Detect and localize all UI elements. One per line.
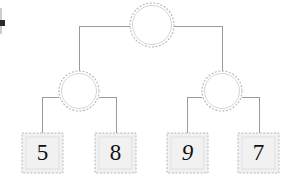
leaf-label-4: 7	[253, 140, 265, 165]
internal-node-right-circle[interactable]	[202, 71, 242, 111]
root-node[interactable]	[130, 3, 174, 47]
edge-right-child-to-leaf-4	[242, 97, 259, 133]
root-node-circle[interactable]	[130, 3, 174, 47]
internal-node-left[interactable]	[59, 71, 99, 111]
binary-tree-diagram: 5 8 9 7	[0, 0, 286, 184]
edge-left-child-to-leaf-1	[42, 97, 59, 133]
leaf-node-2[interactable]: 8	[95, 133, 136, 173]
left-edge-mark-icon	[0, 20, 5, 26]
internal-node-group	[59, 3, 242, 111]
leaf-node-1[interactable]: 5	[22, 133, 63, 173]
diagram-canvas: 5 8 9 7	[0, 0, 286, 184]
edge-left-child-to-leaf-2	[99, 97, 116, 133]
leaf-node-4[interactable]: 7	[238, 133, 279, 173]
left-edge-faint-mark	[0, 8, 2, 20]
leaf-label-1: 5	[37, 140, 49, 165]
edge-root-to-left-child	[79, 26, 130, 71]
leaf-label-2: 8	[110, 140, 122, 165]
leaf-label-3: 9	[182, 140, 194, 165]
edge-right-child-to-leaf-3	[187, 97, 202, 133]
edge-root-to-right-child	[174, 26, 222, 71]
leaf-node-3[interactable]: 9	[167, 133, 208, 173]
internal-node-left-circle[interactable]	[59, 71, 99, 111]
left-edge-faint-mark-lower	[0, 26, 2, 34]
internal-node-right[interactable]	[202, 71, 242, 111]
scan-artifact-group	[0, 8, 5, 34]
leaf-node-group: 5 8 9 7	[22, 133, 279, 173]
